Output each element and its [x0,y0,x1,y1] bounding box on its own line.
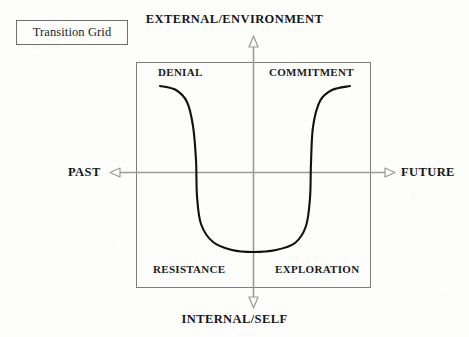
arrow-down-icon [249,297,258,308]
arrow-right-icon [385,168,395,177]
arrow-up-icon [249,36,258,47]
arrow-left-icon [110,168,120,177]
grid-diagram [0,0,469,337]
transition-curve [160,86,350,252]
diagram-canvas: Transition Grid EXTERNAL/ENVIRONMENT INT… [0,0,469,337]
